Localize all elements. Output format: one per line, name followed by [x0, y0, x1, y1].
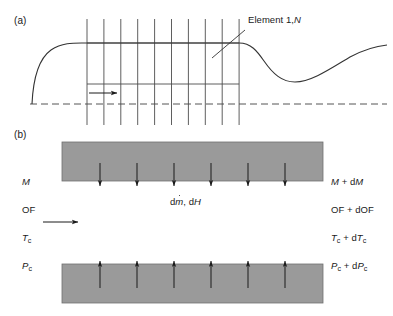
- symbol-T-out: T: [357, 232, 363, 243]
- dm-H: H: [194, 196, 201, 207]
- subscript-c: c: [28, 236, 32, 245]
- panel-a-tag: (a): [14, 16, 26, 27]
- outlet-label-Tc-dTc: Tc + dTc: [331, 233, 366, 243]
- symbol-OF-out: OF + dOF: [331, 204, 374, 215]
- subscript-c: c: [363, 236, 367, 245]
- inlet-label-Tc: Tc: [22, 233, 32, 243]
- dm-separator: , d: [183, 196, 194, 207]
- subscript-c: c: [337, 236, 341, 245]
- inlet-label-M: M: [22, 177, 30, 187]
- plus-sign: +: [339, 176, 350, 187]
- panel-b-graphic: [43, 142, 323, 303]
- symbol-M: M: [22, 176, 30, 187]
- plus-sign: +: [341, 232, 352, 243]
- inlet-label-OF: OF: [22, 205, 35, 215]
- panel-b-tag: (b): [14, 130, 26, 141]
- symbol-T: T: [331, 232, 337, 243]
- symbol-M-out: M: [355, 176, 363, 187]
- upper-wall-block: [62, 142, 323, 181]
- mass-enthalpy-increment-label: dm, dH: [170, 197, 201, 207]
- symbol-P-out: P: [357, 260, 363, 271]
- element-callout-label: Element 1,N: [248, 15, 301, 25]
- element-callout-leader: [212, 30, 245, 58]
- dm-mdot: m: [175, 197, 183, 207]
- panel-a-graphic: [30, 19, 387, 125]
- subscript-c: c: [337, 264, 341, 273]
- contour-curve: [32, 43, 387, 104]
- element-callout-index: N: [294, 14, 301, 25]
- subscript-c: c: [28, 264, 32, 273]
- inlet-label-Pc: Pc: [22, 261, 32, 271]
- outlet-label-Pc-dPc: Pc + dPc: [331, 261, 367, 271]
- symbol-OF: OF: [22, 204, 35, 215]
- plus-sign: +: [341, 260, 352, 271]
- outlet-label-M-dM: M + dM: [331, 177, 363, 187]
- subscript-c: c: [364, 264, 368, 273]
- symbol-T: T: [22, 232, 28, 243]
- lower-wall-block: [62, 264, 323, 303]
- symbol-M: M: [331, 176, 339, 187]
- element-grid-lines: [87, 19, 239, 125]
- figure-root: (a) (b) Element 1,N dm, dH M OF Tc Pc M …: [0, 0, 393, 316]
- element-callout-prefix: Element 1,: [248, 14, 294, 25]
- outlet-label-OF-dOF: OF + dOF: [331, 205, 374, 215]
